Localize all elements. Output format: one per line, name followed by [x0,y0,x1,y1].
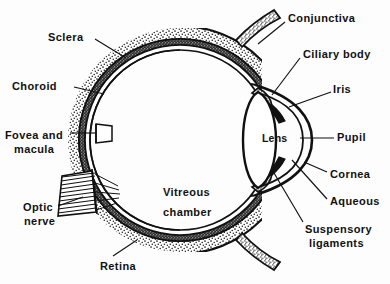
cornea-leader [304,162,327,172]
label-retina: Retina [100,260,136,273]
label-optic: Optic [23,201,53,214]
label-ligaments: ligaments [309,237,364,250]
label-macula: macula [14,143,54,156]
ciliary-leader [272,58,300,95]
label-choroid: Choroid [12,80,57,93]
label-fovea-and: Fovea and [5,129,63,142]
label-suspensory: Suspensory [305,223,372,236]
label-vitreous: Vitreous [163,186,210,199]
label-iris: Iris [333,83,351,96]
label-nerve: nerve [24,215,55,228]
label-cornea: Cornea [330,168,370,181]
label-sclera: Sclera [48,31,83,44]
aqueous-leader [292,160,327,199]
retina-leader [113,240,137,256]
label-lens: Lens [262,132,287,145]
label-ciliary-body: Ciliary body [303,48,371,61]
fovea-macula-notch [96,124,112,143]
label-pupil: Pupil [337,131,366,144]
label-aqueous: Aqueous [330,195,380,208]
label-chamber: chamber [163,206,212,219]
iris-leader [289,92,331,107]
label-conjunctiva: Conjunctiva [288,12,355,25]
eye-anatomy-diagram: Sclera Choroid Fovea and macula Optic ne… [0,0,390,284]
